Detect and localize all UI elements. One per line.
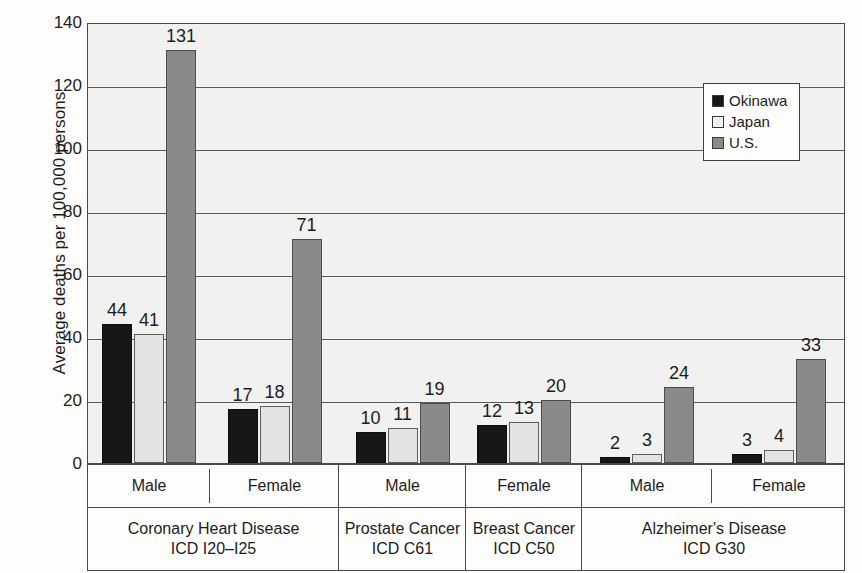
bar-value-label: 13 [514, 398, 534, 419]
bar-value-label: 131 [166, 26, 196, 47]
bar-group: 101119 [339, 24, 466, 463]
legend-swatch-icon [712, 95, 724, 107]
sex-cell-male-0: Male [88, 465, 210, 507]
sex-label: Male [385, 476, 420, 496]
disease-name: Breast Cancer [473, 519, 575, 539]
sex-cell-female-3: Female [466, 465, 582, 507]
y-tick-label: 100 [38, 139, 82, 159]
sex-cell-male-4: Male [582, 465, 712, 507]
bar-us [796, 359, 826, 463]
y-tick-label: 0 [38, 454, 82, 474]
disease-icd-code: ICD C50 [493, 539, 554, 559]
sex-cell-female-1: Female [210, 465, 339, 507]
disease-name: Coronary Heart Disease [128, 519, 300, 539]
disease-icd-code: ICD I20–I25 [171, 539, 256, 559]
bar-us [541, 400, 571, 463]
disease-cell-2: Breast CancerICD C50 [466, 508, 582, 570]
bar-value-label: 10 [360, 408, 380, 429]
bar-value-label: 44 [107, 300, 127, 321]
legend-swatch-icon [712, 116, 724, 128]
bar-okinawa [102, 324, 132, 463]
legend-label: Japan [729, 113, 770, 130]
bar-value-label: 3 [642, 430, 652, 451]
bar-us [664, 387, 694, 463]
bar-us [420, 403, 450, 463]
bar-value-label: 18 [264, 382, 284, 403]
bar-value-label: 20 [546, 376, 566, 397]
legend-item-okinawa: Okinawa [712, 90, 791, 111]
sex-label: Female [248, 476, 301, 496]
bar-value-label: 19 [424, 379, 444, 400]
bar-value-label: 24 [669, 363, 689, 384]
bar-japan [509, 422, 539, 463]
bar-japan [632, 454, 662, 463]
sex-category-row: MaleFemaleMaleFemaleMaleFemale [87, 464, 845, 508]
sex-label: Male [630, 476, 665, 496]
bar-value-label: 3 [742, 430, 752, 451]
sex-label: Female [497, 476, 550, 496]
disease-name: Alzheimer's Disease [642, 519, 786, 539]
bar-japan [388, 428, 418, 463]
disease-cell-3: Alzheimer's DiseaseICD G30 [582, 508, 846, 570]
bar-okinawa [477, 425, 507, 463]
bar-group: 4441131 [88, 24, 210, 463]
disease-cell-1: Prostate CancerICD C61 [339, 508, 466, 570]
y-tick-label: 40 [38, 328, 82, 348]
bar-okinawa [732, 454, 762, 463]
bar-value-label: 11 [393, 404, 412, 425]
legend-label: U.S. [729, 134, 758, 151]
bar-okinawa [600, 457, 630, 463]
sex-label: Female [752, 476, 805, 496]
bar-group: 2324 [582, 24, 712, 463]
legend-item-us: U.S. [712, 132, 791, 153]
disease-icd-code: ICD C61 [372, 539, 433, 559]
y-tick-label: 20 [38, 391, 82, 411]
bar-us [166, 50, 196, 463]
bar-chart-figure: Average deaths per 100,000 persons 14012… [0, 0, 862, 573]
bar-value-label: 12 [482, 401, 502, 422]
y-axis-tick-labels: 140120100806040200 [30, 0, 82, 573]
legend-item-japan: Japan [712, 111, 791, 132]
bar-japan [764, 450, 794, 463]
y-tick-label: 80 [38, 202, 82, 222]
disease-category-row: Coronary Heart DiseaseICD I20–I25Prostat… [87, 508, 845, 571]
y-tick-label: 60 [38, 265, 82, 285]
bar-group: 121320 [466, 24, 582, 463]
bar-value-label: 71 [296, 215, 316, 236]
legend-label: Okinawa [729, 92, 787, 109]
legend-swatch-icon [712, 137, 724, 149]
bar-value-label: 17 [232, 385, 252, 406]
bar-value-label: 33 [801, 335, 821, 356]
bar-value-label: 4 [774, 426, 784, 447]
sex-cell-male-2: Male [339, 465, 466, 507]
chart-legend: OkinawaJapanU.S. [703, 83, 800, 161]
disease-name: Prostate Cancer [345, 519, 461, 539]
disease-icd-code: ICD G30 [683, 539, 745, 559]
bar-value-label: 2 [610, 433, 620, 454]
sex-cell-female-5: Female [712, 465, 846, 507]
bar-value-label: 41 [139, 310, 159, 331]
y-tick-label: 120 [38, 76, 82, 96]
y-tick-label: 140 [38, 13, 82, 33]
bar-us [292, 239, 322, 463]
bar-okinawa [228, 409, 258, 463]
bar-group: 171871 [210, 24, 339, 463]
disease-cell-0: Coronary Heart DiseaseICD I20–I25 [88, 508, 339, 570]
bar-japan [260, 406, 290, 463]
bar-okinawa [356, 432, 386, 464]
bar-japan [134, 334, 164, 463]
sex-label: Male [132, 476, 167, 496]
